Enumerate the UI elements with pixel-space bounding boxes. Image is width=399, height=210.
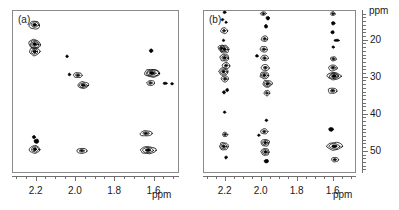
contour-core	[263, 57, 265, 59]
y-tick-label: 50	[370, 145, 381, 156]
contour-peak	[223, 111, 226, 113]
contour-core	[266, 92, 268, 94]
contour-peak	[225, 156, 228, 159]
y-tick	[363, 29, 366, 30]
y-tick	[363, 66, 366, 67]
y-tick-label: 40	[370, 108, 381, 119]
contour-peak	[266, 16, 270, 20]
x-tick	[270, 176, 271, 179]
x-tick	[173, 176, 174, 179]
x-tick	[65, 176, 66, 179]
contour-core	[80, 150, 83, 152]
contour-peak	[221, 76, 228, 82]
contour-core	[224, 134, 226, 135]
contour-peak	[329, 65, 338, 71]
contour-peak	[222, 39, 224, 41]
contour-peak	[73, 73, 82, 78]
contour-peak	[140, 147, 156, 154]
contour-peak	[149, 49, 152, 53]
y-tick	[363, 43, 366, 44]
y-tick	[363, 21, 366, 22]
contour-ring	[149, 49, 152, 53]
x-tick	[225, 176, 226, 181]
contour-ring	[222, 39, 224, 41]
panel-a: (a) 2.22.01.81.6 ppm	[0, 0, 199, 210]
contour-peak	[219, 143, 228, 150]
contour-ring	[334, 39, 339, 41]
x-tick	[333, 176, 334, 181]
y-tick	[363, 155, 366, 156]
contour-peak	[326, 142, 342, 150]
y-tick	[363, 80, 366, 81]
y-tick	[363, 106, 366, 107]
contour-peak	[256, 55, 259, 58]
contour-core	[222, 70, 225, 72]
contour-peak	[66, 55, 69, 57]
contour-peak	[264, 25, 267, 28]
contour-peak	[261, 64, 269, 70]
y-tick	[363, 132, 366, 133]
contour-core	[263, 74, 266, 76]
x-tick	[315, 176, 316, 179]
contour-peak	[331, 31, 334, 34]
y-tick	[363, 169, 366, 170]
contour-peak	[263, 80, 272, 87]
contour-peak	[30, 48, 41, 56]
contour-core	[334, 159, 336, 160]
contour-ring	[331, 31, 334, 34]
contour-peak	[225, 21, 227, 23]
contour-ring	[264, 159, 268, 163]
contour-ring	[256, 55, 259, 58]
contour-peak	[29, 39, 41, 48]
y-tick	[363, 162, 366, 163]
contour-core	[150, 72, 155, 74]
x-tick	[216, 176, 217, 179]
contour-ring	[68, 73, 70, 76]
y-tick	[363, 117, 366, 118]
contour-peak	[34, 139, 38, 143]
x-tick	[207, 176, 208, 179]
contour-ring	[32, 135, 35, 138]
contour-core	[223, 57, 226, 59]
y-tick	[363, 32, 366, 33]
contour-core	[33, 24, 36, 26]
x-tick	[144, 176, 145, 179]
contour-core	[263, 131, 265, 133]
contour-core	[224, 78, 226, 80]
y-tick	[363, 125, 366, 126]
clipped-contours	[218, 11, 343, 163]
contour-core	[220, 47, 222, 49]
contour-core	[264, 38, 266, 40]
contour-peak	[221, 18, 224, 20]
contour-peak	[330, 57, 336, 61]
x-tick	[243, 176, 244, 179]
contour-ring	[222, 91, 225, 94]
panel-a-contour-layer	[0, 0, 199, 210]
x-tick	[104, 176, 105, 179]
y-tick	[363, 51, 366, 52]
x-tick	[124, 176, 125, 179]
contour-peak	[332, 46, 334, 48]
y-tick	[363, 17, 366, 18]
y-tick	[363, 103, 366, 104]
contour-peak	[329, 127, 334, 131]
contour-core	[332, 75, 336, 77]
y-tick	[363, 55, 366, 56]
y-tick	[363, 69, 366, 70]
x-tick-label: 2.0	[247, 185, 275, 196]
y-tick	[363, 95, 366, 96]
contour-core	[263, 48, 265, 50]
panel-b-x-axis-title: ppm	[333, 189, 352, 200]
contour-peak	[226, 88, 229, 91]
contour-core	[81, 84, 85, 86]
contour-core	[144, 132, 147, 134]
x-tick	[297, 176, 298, 181]
contour-core	[332, 145, 337, 147]
y-tick	[363, 47, 366, 48]
y-tick	[363, 88, 366, 89]
x-tick	[306, 176, 307, 179]
x-tick	[36, 176, 37, 181]
contour-core	[331, 90, 334, 92]
contour-core	[264, 151, 267, 153]
contour-core	[266, 83, 269, 85]
